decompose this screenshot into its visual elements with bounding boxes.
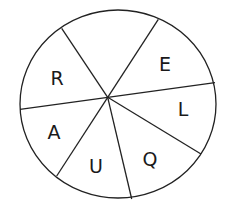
sector-label-bottom: U xyxy=(89,155,103,177)
sector-label-upper-right: E xyxy=(159,53,171,75)
sector-label-lower-right: Q xyxy=(143,148,158,170)
letter-wheel-diagram: E L Q U A R xyxy=(0,0,227,209)
sector-label-left: A xyxy=(48,121,61,143)
sector-label-right: L xyxy=(178,98,189,120)
sector-label-upper-left: R xyxy=(50,67,63,89)
